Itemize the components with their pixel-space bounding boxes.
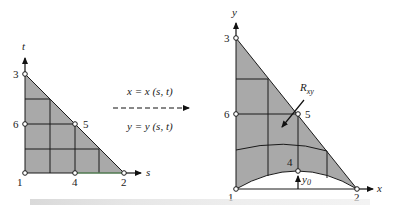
node-5-label: 5 <box>83 118 89 130</box>
node-3-label: 3 <box>13 68 19 80</box>
mapping-transform: x = x (s, t) y = y (s, t) <box>113 85 189 133</box>
node-3-label: 3 <box>224 32 230 44</box>
node-3 <box>234 36 239 41</box>
node-6 <box>234 112 239 117</box>
parent-element-st: t s 1 2 3 4 5 6 <box>13 40 150 188</box>
node-3 <box>23 72 28 77</box>
mapped-element-xy: y0 Rxy y x 1 2 3 4 5 6 <box>224 6 382 203</box>
node-4-label: 4 <box>287 156 293 168</box>
node-6-label: 6 <box>13 118 19 130</box>
mapping-diagram: t s 1 2 3 4 5 6 x = x (s, t) y = y (s, t… <box>0 0 396 210</box>
y0-label: y0 <box>301 173 311 187</box>
node-5 <box>73 122 78 127</box>
node-6-label: 6 <box>224 108 230 120</box>
node-6 <box>23 122 28 127</box>
node-2 <box>122 171 127 176</box>
s-axis-label: s <box>146 166 150 178</box>
y-axis-label: y <box>231 6 237 18</box>
node-1 <box>23 171 28 176</box>
x-mapping-equation: x = x (s, t) <box>126 85 173 98</box>
cropped-caption-line <box>30 199 370 205</box>
node-4 <box>296 169 301 174</box>
region-label: Rxy <box>299 81 314 96</box>
node-1 <box>234 187 239 192</box>
x-axis-label: x <box>376 182 382 194</box>
node-1-label: 1 <box>17 176 23 188</box>
y-mapping-equation: y = y (s, t) <box>126 120 173 133</box>
node-4-label: 4 <box>72 176 78 188</box>
t-axis-label: t <box>22 40 26 52</box>
node-5-label: 5 <box>305 108 311 120</box>
node-5 <box>296 112 301 117</box>
node-2-label: 2 <box>121 176 127 188</box>
node-4 <box>73 171 78 176</box>
